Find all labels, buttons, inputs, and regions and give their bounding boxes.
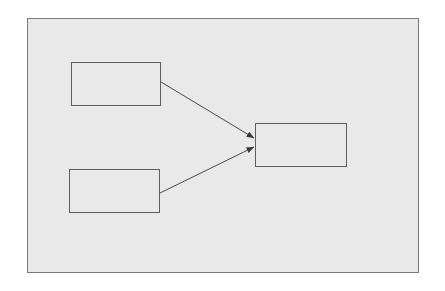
node-source-bottom — [69, 169, 160, 213]
diagram-canvas — [0, 0, 445, 291]
diagram-frame — [27, 18, 419, 273]
node-label — [72, 63, 160, 105]
node-target — [255, 123, 347, 167]
node-label — [70, 170, 159, 212]
node-source-top — [71, 62, 161, 106]
node-label — [256, 124, 346, 166]
